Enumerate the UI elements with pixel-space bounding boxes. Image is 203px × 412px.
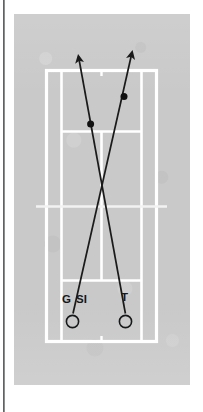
player-label-SI: SI	[76, 294, 87, 306]
court-lines-and-trajectories	[0, 0, 203, 412]
player-marker-T[interactable]	[119, 315, 131, 327]
player-label-T: T	[121, 292, 128, 304]
player-label-G: G	[62, 294, 71, 306]
tennis-court-diagram: G SI T	[0, 0, 203, 412]
contact-dot-T	[87, 121, 94, 128]
contact-dot-G-SI	[121, 93, 128, 100]
player-marker-G-SI[interactable]	[66, 315, 78, 327]
